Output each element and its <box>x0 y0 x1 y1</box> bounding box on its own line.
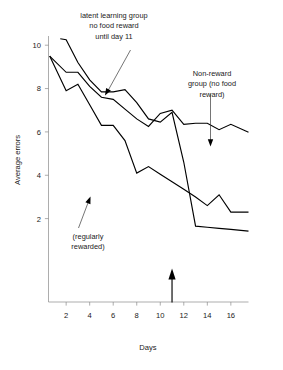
y-tick-label-10: 10 <box>33 41 41 50</box>
x-tick-label-12: 12 <box>180 311 188 320</box>
regularly-rewarded-annotation-arrowhead <box>85 196 93 205</box>
x-tick-labels: 246810121416 <box>64 311 235 320</box>
latent-learning-annotation-line-0: latent learning group <box>80 11 147 20</box>
y-tick-labels: 246810 <box>33 41 41 223</box>
chart-svg: 246810 246810121416 latent learning grou… <box>0 0 283 370</box>
x-tick-label-8: 8 <box>135 311 139 320</box>
x-tick-label-4: 4 <box>88 311 92 320</box>
annotation-layer: latent learning groupno food rewarduntil… <box>71 11 236 303</box>
non-reward-annotation-line-2: reward) <box>199 90 224 99</box>
latent-learning-annotation-leader-line <box>108 50 131 92</box>
x-axis-title: Days <box>139 343 157 352</box>
latent-learning-annotation-line-2: until day 11 <box>95 32 132 41</box>
y-tick-label-4: 4 <box>37 171 41 180</box>
x-tick-label-6: 6 <box>111 311 115 320</box>
chart-figure: 246810 246810121416 latent learning grou… <box>0 0 283 370</box>
y-tick-label-2: 2 <box>37 215 41 224</box>
non-reward-annotation-arrowhead <box>208 139 213 146</box>
day-11-arrow-head <box>168 269 175 280</box>
non-reward-annotation-line-0: Non-reward <box>193 69 232 78</box>
x-tick-label-16: 16 <box>227 311 235 320</box>
latent-learning-annotation-line-1: no food reward <box>89 21 138 30</box>
x-tick-label-2: 2 <box>64 311 68 320</box>
regularly-rewarded-annotation-leader-line <box>79 202 89 229</box>
y-axis-title: Average errors <box>13 135 22 185</box>
regularly-rewarded-annotation-line-0: (regularly <box>73 232 104 241</box>
regularly-rewarded-annotation-line-1: rewarded) <box>71 242 104 251</box>
x-tick-label-14: 14 <box>203 311 211 320</box>
x-tick-label-10: 10 <box>156 311 164 320</box>
non-reward-annotation-line-1: group (no food <box>188 79 236 88</box>
y-tick-label-6: 6 <box>37 128 41 137</box>
y-tick-label-8: 8 <box>37 84 41 93</box>
